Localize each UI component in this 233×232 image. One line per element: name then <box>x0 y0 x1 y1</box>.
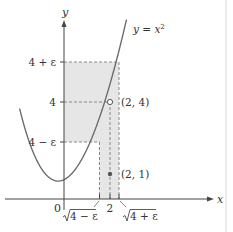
curve-label-text: y = x <box>132 23 160 35</box>
limit-diagram: y x 0 y = x2 4 + ε 4 4 − ε 2 4 − ε 4 + ε… <box>0 0 233 232</box>
y-tick-label-middle: 4 <box>49 96 56 108</box>
y-axis-arrow-icon <box>62 20 67 27</box>
origin-label: 0 <box>54 202 61 215</box>
x-tick-label-left-radicand: 4 − ε <box>70 210 98 222</box>
filled-point-label: (2, 1) <box>121 168 149 180</box>
y-tick-label-lower: 4 − ε <box>28 136 56 148</box>
leader-left <box>94 201 99 207</box>
shaded-x-band <box>100 62 120 199</box>
x-tick-label-middle: 2 <box>107 202 114 214</box>
x-axis-arrow-icon <box>207 197 214 202</box>
curve-label-exponent: 2 <box>160 23 164 31</box>
leader-right <box>120 201 126 207</box>
open-point-label: (2, 4) <box>121 96 149 108</box>
x-axis-label: x <box>217 193 224 206</box>
y-tick-label-upper: 4 + ε <box>28 56 56 68</box>
filled-point-2-1 <box>108 172 112 176</box>
open-point-2-4 <box>107 99 112 104</box>
x-tick-label-left: 4 − ε <box>63 210 98 223</box>
curve-label: y = x2 <box>132 23 165 35</box>
y-axis-label: y <box>61 6 69 19</box>
x-tick-label-right-radicand: 4 + ε <box>130 210 158 222</box>
x-tick-label-right: 4 + ε <box>123 210 158 223</box>
